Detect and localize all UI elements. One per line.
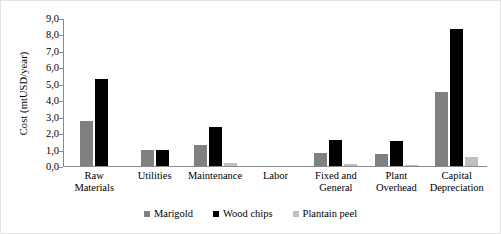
bar[interactable] [80, 121, 93, 166]
y-axis-tick-mark [59, 68, 63, 69]
bar[interactable] [314, 153, 327, 166]
y-axis-tick-label: 9,0 [33, 14, 59, 25]
bar-groups [64, 19, 487, 166]
bar-chart-figure: Cost (mtUSD/year) 9,08,07,06,05,04,03,02… [0, 0, 501, 234]
bar[interactable] [329, 140, 342, 166]
y-axis-tick-mark [59, 85, 63, 86]
y-axis-tick-label: 6,0 [33, 63, 59, 74]
bar[interactable] [224, 163, 237, 166]
y-axis-tick-mark [59, 52, 63, 53]
plot-area [63, 19, 487, 167]
x-axis-category-labels: Raw MaterialsUtilitiesMaintenanceLaborFi… [64, 170, 487, 194]
bar-group [124, 19, 184, 166]
y-axis-title: Cost (mtUSD/year) [15, 19, 33, 167]
bar-group [64, 19, 124, 166]
y-axis-tick-label: 8,0 [33, 30, 59, 41]
legend-swatch-icon [213, 211, 219, 217]
y-axis-tick-mark [59, 167, 63, 168]
y-axis-tick-label: 0,0 [33, 162, 59, 173]
legend-label: Wood chips [223, 208, 273, 219]
bar-group [185, 19, 245, 166]
legend-swatch-icon [144, 211, 150, 217]
x-axis-category-label: Utilities [124, 170, 184, 194]
bar[interactable] [194, 145, 207, 166]
y-axis-tick-mark [59, 151, 63, 152]
legend-swatch-icon [293, 211, 299, 217]
y-axis-tick-label: 5,0 [33, 80, 59, 91]
legend-item[interactable]: Marigold [144, 208, 193, 219]
bar[interactable] [450, 29, 463, 166]
bar[interactable] [390, 141, 403, 166]
bar[interactable] [209, 127, 222, 166]
y-axis-tick-labels: 9,08,07,06,05,04,03,02,01,00,0 [33, 19, 59, 167]
bar-group [245, 19, 305, 166]
x-axis-category-label: Plant Overhead [366, 170, 426, 194]
bar[interactable] [465, 157, 478, 166]
bar[interactable] [141, 150, 154, 166]
legend-item[interactable]: Plantain peel [293, 208, 358, 219]
x-axis-category-label: Capital Depreciation [427, 170, 487, 194]
bar-group [306, 19, 366, 166]
y-axis-tick-label: 4,0 [33, 96, 59, 107]
y-axis-tick-label: 7,0 [33, 47, 59, 58]
x-axis-category-label: Raw Materials [64, 170, 124, 194]
x-axis-line [63, 166, 487, 167]
y-axis-tick-label: 1,0 [33, 145, 59, 156]
bar[interactable] [405, 165, 418, 166]
chart-legend: MarigoldWood chipsPlantain peel [1, 208, 500, 219]
bar[interactable] [95, 79, 108, 166]
legend-label: Marigold [154, 208, 193, 219]
y-axis-tick-label: 3,0 [33, 112, 59, 123]
bar-group [427, 19, 487, 166]
y-axis-tick-mark [59, 134, 63, 135]
legend-label: Plantain peel [303, 208, 358, 219]
y-axis-title-text: Cost (mtUSD/year) [19, 51, 30, 135]
bar[interactable] [344, 164, 357, 166]
bar[interactable] [375, 154, 388, 166]
bar[interactable] [156, 150, 169, 166]
x-axis-category-label: Labor [245, 170, 305, 194]
legend-item[interactable]: Wood chips [213, 208, 273, 219]
y-axis-tick-mark [59, 19, 63, 20]
x-axis-category-label: Maintenance [185, 170, 245, 194]
y-axis-tick-mark [59, 101, 63, 102]
y-axis-tick-mark [59, 118, 63, 119]
bar[interactable] [435, 92, 448, 166]
x-axis-category-label: Fixed and General [306, 170, 366, 194]
y-axis-tick-label: 2,0 [33, 129, 59, 140]
y-axis-tick-mark [59, 35, 63, 36]
bar-group [366, 19, 426, 166]
